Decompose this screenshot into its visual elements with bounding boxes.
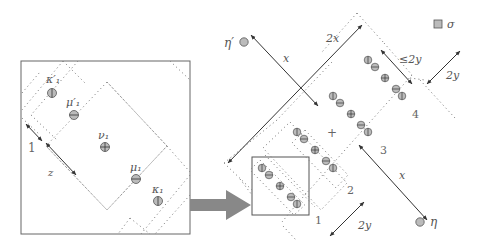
label-x-bottom: x xyxy=(399,169,406,182)
label-mu1: μ₁ xyxy=(130,161,142,174)
label-sigma: σ xyxy=(447,18,455,31)
node-mu1 xyxy=(132,175,141,184)
label-nu1: ν₁ xyxy=(98,129,109,142)
label-plus: + xyxy=(327,126,337,140)
sigma-square-icon xyxy=(434,20,442,28)
label-kappa1: κ₁ xyxy=(151,183,164,196)
region-label-3: 3 xyxy=(380,144,387,157)
label-le-2y: ≤2y xyxy=(399,53,422,66)
label-eta-prime: η′ xyxy=(224,36,234,50)
label-eta: η xyxy=(430,215,438,229)
arrow-x-top xyxy=(251,35,318,106)
node-eta xyxy=(416,218,424,226)
label-2x: 2x xyxy=(325,32,340,45)
diagram-canvas: 1 z κ′₁ μ′₁ ν₁ μ₁ κ₁ xyxy=(0,0,482,249)
label-one: 1 xyxy=(28,141,36,155)
label-x-top: x xyxy=(283,52,290,65)
node-nu1 xyxy=(101,143,110,152)
right-measure-arrows xyxy=(228,25,460,236)
label-z: z xyxy=(47,167,54,178)
legend-sigma xyxy=(434,20,442,28)
transition-arrow xyxy=(190,190,251,220)
node-kappa1-prime xyxy=(48,89,57,98)
arrow-x-bottom xyxy=(359,145,427,220)
region-label-2: 2 xyxy=(347,184,354,197)
left-panel: 1 z κ′₁ μ′₁ ν₁ μ₁ κ₁ xyxy=(21,61,190,234)
right-dotted-regions xyxy=(224,13,455,240)
node-eta-prime xyxy=(240,38,248,46)
right-panel: η′ η σ x 2x ≤2y 2y x 2y + 1 2 3 4 xyxy=(224,13,460,240)
label-mu1-prime: μ′₁ xyxy=(66,96,80,109)
region-label-1: 1 xyxy=(315,214,322,227)
label-kappa1-prime: κ′₁ xyxy=(45,73,60,86)
label-2y-right: 2y xyxy=(445,69,460,82)
label-2y-bottom: 2y xyxy=(357,219,372,232)
region-label-4: 4 xyxy=(412,108,419,121)
node-kappa1 xyxy=(154,197,163,206)
node-mu1-prime xyxy=(70,111,79,120)
arrow-2x xyxy=(228,25,362,163)
